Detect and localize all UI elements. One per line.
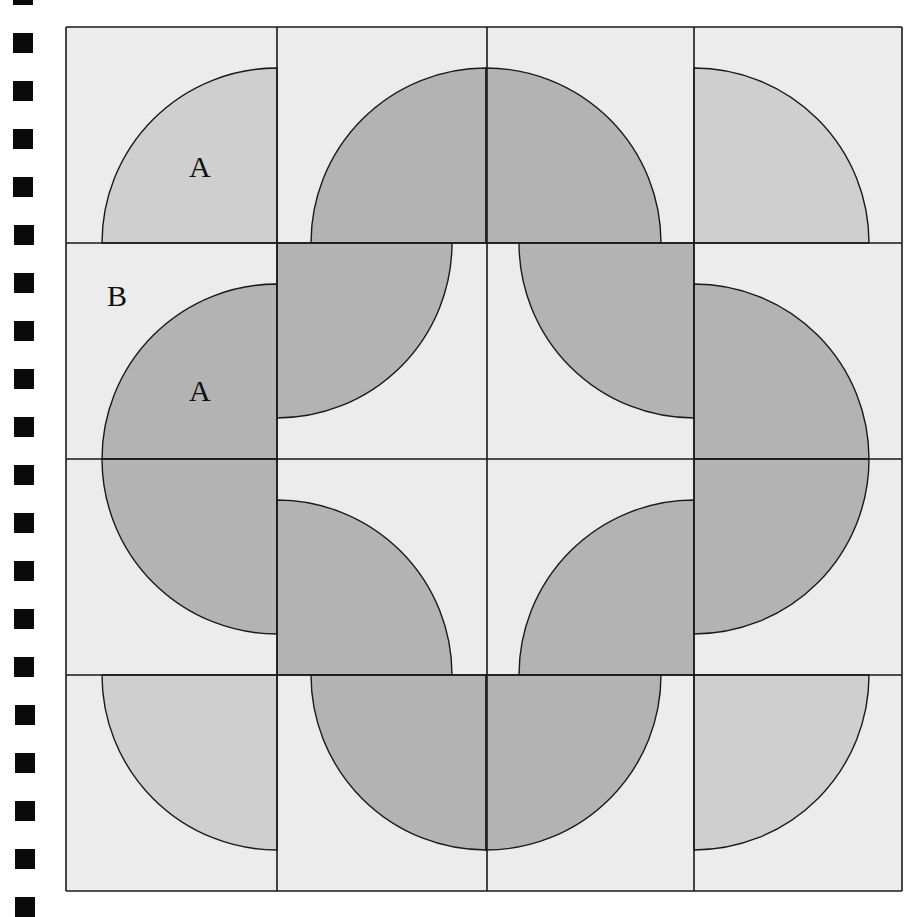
label-a-middle: A bbox=[189, 374, 211, 407]
label-a-top: A bbox=[189, 150, 211, 183]
label-b: B bbox=[107, 279, 127, 312]
